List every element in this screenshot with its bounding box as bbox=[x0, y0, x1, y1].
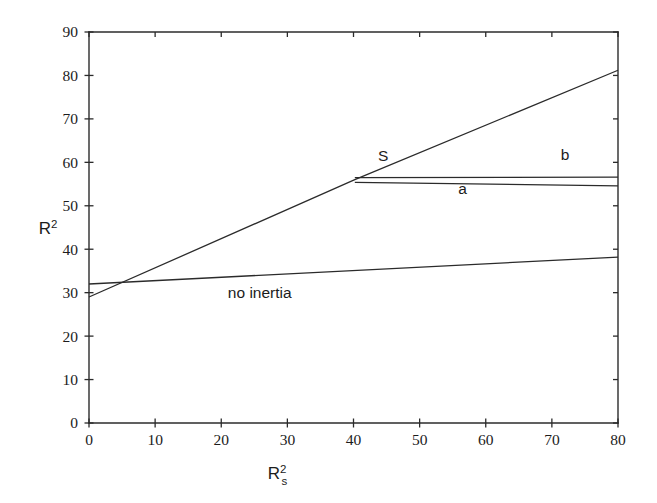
data-series-group bbox=[89, 70, 618, 297]
tick-labels-group: 010203040506070809001020304050607080 bbox=[63, 23, 627, 448]
y-tick-label: 20 bbox=[63, 328, 79, 345]
y-tick-label: 50 bbox=[63, 197, 79, 214]
curve-label-a: a bbox=[458, 180, 467, 197]
y-tick-label: 10 bbox=[63, 371, 79, 388]
x-tick-label: 10 bbox=[147, 431, 163, 448]
curve-labels-group: Sbano inertia bbox=[228, 146, 570, 301]
line-chart: 010203040506070809001020304050607080 Sba… bbox=[0, 0, 657, 503]
data-line-no-inertia bbox=[89, 257, 618, 284]
x-tick-label: 60 bbox=[478, 431, 494, 448]
x-axis-title-superscript: 2 bbox=[280, 463, 286, 475]
x-tick-label: 20 bbox=[214, 431, 230, 448]
x-tick-label: 40 bbox=[346, 431, 362, 448]
x-tick-label: 80 bbox=[610, 431, 626, 448]
y-tick-label: 80 bbox=[63, 67, 79, 84]
x-axis-title: R2s bbox=[268, 463, 288, 487]
curve-label-S: S bbox=[378, 147, 388, 164]
figure-container: 010203040506070809001020304050607080 Sba… bbox=[0, 0, 657, 503]
x-axis-title-base: R bbox=[268, 464, 280, 483]
x-axis-title-subscript: s bbox=[281, 475, 287, 487]
y-tick-label: 70 bbox=[63, 110, 79, 127]
y-tick-label: 90 bbox=[63, 23, 79, 40]
y-tick-label: 30 bbox=[63, 284, 79, 301]
x-tick-label: 70 bbox=[544, 431, 560, 448]
y-axis-title: R2 bbox=[39, 218, 58, 238]
x-tick-label: 30 bbox=[280, 431, 296, 448]
x-tick-label: 50 bbox=[412, 431, 428, 448]
y-tick-label: 0 bbox=[70, 414, 78, 431]
curve-label-b: b bbox=[561, 146, 570, 163]
y-axis-title-superscript: 2 bbox=[51, 218, 57, 230]
x-tick-label: 0 bbox=[85, 431, 93, 448]
y-tick-label: 60 bbox=[63, 154, 79, 171]
curve-label-no-inertia: no inertia bbox=[228, 284, 292, 301]
data-line-S bbox=[89, 70, 618, 297]
y-tick-label: 40 bbox=[63, 241, 79, 258]
y-axis-title-base: R bbox=[39, 219, 51, 238]
axis-titles-group: R2R2s bbox=[39, 218, 288, 488]
ticks-group bbox=[85, 32, 619, 428]
axes-group bbox=[89, 32, 618, 423]
data-line-a bbox=[355, 182, 618, 185]
